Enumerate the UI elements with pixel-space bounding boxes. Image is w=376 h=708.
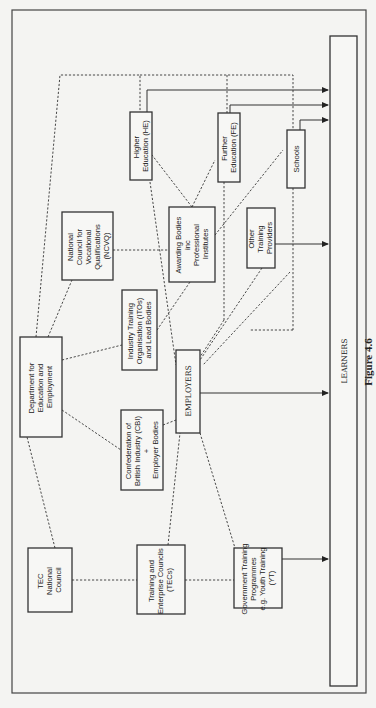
node-higher-education: Higher Education (HE)	[130, 112, 152, 180]
node-tecs: Training and Enterprise Councils (TECs)	[137, 545, 185, 614]
node-government-training: Government Training Programmes e.g. Yout…	[234, 541, 282, 614]
education-training-diagram: TEC National Council Training and Enterp…	[0, 0, 376, 708]
svg-text:Industry Training Organi: Industry Training Organisation (ITOs) an…	[126, 296, 153, 365]
svg-text:EMPLOYERS: EMPLOYERS	[184, 365, 193, 416]
svg-text:Department for Education: Department for Education and Employment	[27, 361, 54, 414]
node-other-training-providers: Other Training Providers	[247, 208, 275, 268]
node-cbi: Confederation of British Industry (CBI) …	[121, 410, 163, 490]
node-ito: Industry Training Organisation (ITOs) an…	[122, 290, 157, 370]
node-learners: LEARNERS	[330, 36, 357, 686]
node-dfee: Department for Education and Employment	[20, 337, 62, 437]
svg-text:Schools: Schools	[292, 145, 301, 172]
dashed-connectors	[27, 75, 293, 580]
node-schools: Schools	[287, 130, 305, 188]
node-further-education: Further Education (FE)	[218, 113, 240, 182]
node-tec-national-council: TEC National Council	[28, 548, 72, 612]
svg-text:LEARNERS: LEARNERS	[340, 339, 349, 384]
figure-caption: Figure 4.6	[362, 338, 374, 386]
node-ncvq: National Council for Vocational Qualific…	[62, 212, 113, 280]
svg-text:Figure 4.6: Figure 4.6	[362, 338, 374, 386]
node-awarding-bodies: Awarding Bodies inc Professional Institu…	[169, 207, 215, 282]
node-employers: EMPLOYERS	[176, 350, 200, 433]
